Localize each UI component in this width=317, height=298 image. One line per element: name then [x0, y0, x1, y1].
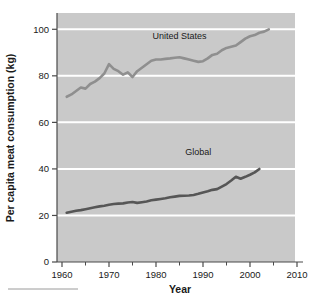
x-tick-label: 1970: [98, 269, 119, 280]
x-tick-label: 2010: [286, 269, 307, 280]
y-axis-ticks: [52, 29, 57, 262]
x-axis-ticks: [62, 262, 297, 267]
plot-area-background: [57, 13, 295, 262]
y-axis-title: Per capita meat consumption (kg): [4, 54, 16, 223]
series-label-global: Global: [185, 147, 211, 157]
y-tick-label: 40: [38, 163, 49, 174]
x-axis-title: Year: [169, 283, 191, 295]
y-tick-label: 20: [38, 210, 49, 221]
y-tick-label: 100: [33, 24, 49, 35]
series-label-united-states: United States: [152, 31, 207, 41]
chart-figure: 020406080100 196019701980199020002010 Un…: [0, 0, 317, 298]
y-tick-label: 0: [44, 256, 49, 267]
x-tick-label: 2000: [239, 269, 260, 280]
line-chart: 020406080100 196019701980199020002010 Un…: [0, 0, 317, 298]
x-tick-label: 1980: [145, 269, 166, 280]
y-tick-label: 60: [38, 117, 49, 128]
y-axis-tick-labels: 020406080100: [33, 24, 49, 268]
x-axis-tick-labels: 196019701980199020002010: [51, 269, 307, 280]
x-tick-label: 1990: [192, 269, 213, 280]
x-tick-label: 1960: [51, 269, 72, 280]
y-tick-label: 80: [38, 70, 49, 81]
